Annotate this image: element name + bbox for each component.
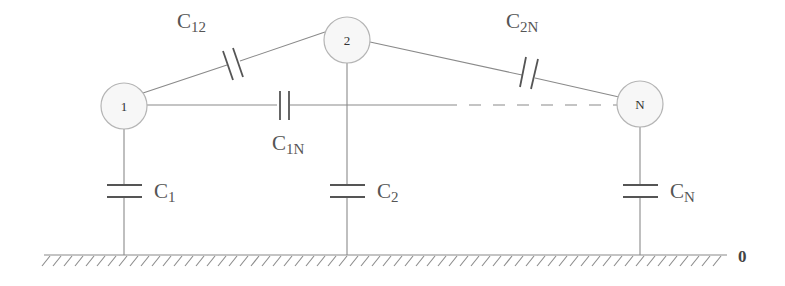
svg-text:2: 2 <box>344 33 351 48</box>
label-c2n: C2N <box>506 9 539 35</box>
label-c2: C2 <box>377 179 399 205</box>
capacitor-cn: CN <box>623 127 695 255</box>
capacitor-c2n: C2N <box>370 9 619 97</box>
capacitor-c2: C2 <box>330 63 399 255</box>
node-1: 1 <box>101 83 147 129</box>
capacitor-c12: C12 <box>143 9 325 93</box>
svg-text:N: N <box>635 97 645 112</box>
ground-label: 0 <box>738 247 747 266</box>
svg-text:1: 1 <box>121 99 128 114</box>
ground-plane: 0 <box>42 247 747 266</box>
node-n: N <box>617 81 663 127</box>
label-c1: C1 <box>154 179 176 205</box>
capacitor-c1: C1 <box>107 129 176 255</box>
capacitance-network-diagram: C12 C1N C2N C1 C2 CN <box>0 0 785 286</box>
label-cn: CN <box>670 179 695 205</box>
label-c12: C12 <box>177 9 206 35</box>
capacitor-c1n: C1N <box>147 91 617 157</box>
node-2: 2 <box>324 17 370 63</box>
ground-hatching <box>42 256 721 266</box>
label-c1n: C1N <box>272 131 305 157</box>
